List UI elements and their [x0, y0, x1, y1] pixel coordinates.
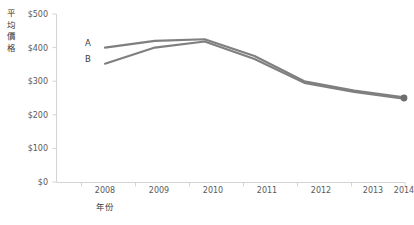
end-point-marker: [401, 95, 408, 102]
series-line-b: [105, 42, 404, 99]
x-tick-label-2010: 2010: [203, 186, 223, 195]
x-tick-label-2012: 2012: [311, 186, 331, 195]
series-line-a: [105, 39, 404, 97]
x-axis-title: 年份: [96, 200, 114, 212]
x-tick-label-2009: 2009: [149, 186, 169, 195]
series-label-b: B: [85, 54, 91, 64]
x-tick-label-2008: 2008: [95, 186, 115, 195]
x-tick-label-2014: 2014: [394, 186, 414, 195]
x-tick-label-2011: 2011: [257, 186, 277, 195]
series-label-a: A: [85, 38, 91, 48]
x-tick-label-2013: 2013: [363, 186, 383, 195]
